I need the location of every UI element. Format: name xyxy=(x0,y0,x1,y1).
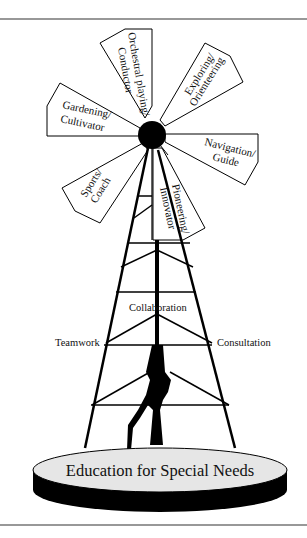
windmill-diagram: Orchestral playing/ Conductor Exploring/… xyxy=(0,0,307,538)
consultation-label: Consultation xyxy=(217,337,271,348)
climber-figure xyxy=(127,345,171,450)
collaboration-label: Collaboration xyxy=(129,302,187,313)
base-label: Education for Special Needs xyxy=(66,461,254,480)
tower-labels: Collaboration Teamwork Consultation xyxy=(55,302,271,348)
teamwork-label: Teamwork xyxy=(55,337,100,348)
windmill-hub xyxy=(138,121,166,149)
